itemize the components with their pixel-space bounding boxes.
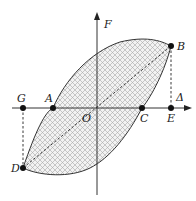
label-B: B bbox=[176, 40, 185, 53]
point-A bbox=[50, 105, 56, 111]
point-C bbox=[139, 105, 145, 111]
label-C: C bbox=[140, 112, 149, 125]
hysteresis-diagram: F Δ O A B C D E G bbox=[0, 0, 196, 201]
label-G: G bbox=[17, 92, 26, 105]
x-axis-label: Δ bbox=[175, 91, 184, 104]
origin-label: O bbox=[82, 112, 91, 125]
label-D: D bbox=[10, 162, 20, 175]
point-B bbox=[168, 43, 174, 49]
point-D bbox=[20, 165, 26, 171]
y-axis-arrow-icon bbox=[94, 12, 100, 20]
y-axis-label: F bbox=[103, 18, 112, 31]
x-axis-arrow-icon bbox=[184, 105, 192, 111]
point-E bbox=[168, 105, 174, 111]
label-A: A bbox=[44, 92, 53, 105]
label-E: E bbox=[166, 112, 175, 125]
point-G bbox=[20, 105, 26, 111]
